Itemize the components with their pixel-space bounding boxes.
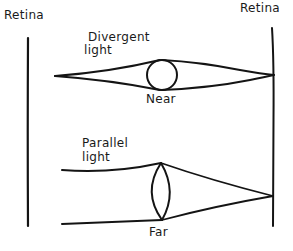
near-lens-circle [147, 60, 177, 90]
near-label: Near [146, 93, 176, 106]
parallel-ray-top-out [161, 163, 273, 196]
parallel-light-label-line1: Parallel [82, 137, 128, 150]
far-label: Far [149, 226, 168, 239]
retina-left-label: Retina [4, 9, 44, 22]
parallel-ray-top-in [62, 163, 161, 171]
divergent-ray-top-in [55, 60, 160, 76]
divergent-ray-bottom-in [55, 76, 160, 90]
parallel-ray-bottom-in [62, 220, 162, 224]
divergent-ray-bottom-out [162, 75, 274, 90]
far-lens-biconvex [152, 163, 170, 220]
divergent-light-label-line2: light [84, 44, 112, 57]
parallel-light-label-line2: light [82, 151, 110, 164]
retina-right-label: Retina [240, 2, 280, 15]
divergent-ray-top-out [162, 60, 274, 75]
parallel-ray-bottom-out [162, 196, 273, 220]
